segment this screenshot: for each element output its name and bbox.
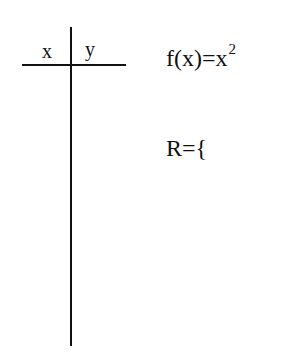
relation-open-brace: { bbox=[196, 135, 208, 161]
function-equals: = bbox=[202, 45, 216, 71]
relation-equals: = bbox=[182, 135, 196, 161]
relation-label: R bbox=[166, 135, 182, 161]
function-definition: f(x)=x2 bbox=[166, 39, 236, 71]
function-base: x bbox=[216, 45, 228, 71]
column-header-x: x bbox=[42, 41, 52, 61]
function-exponent: 2 bbox=[229, 41, 237, 57]
t-chart-vertical-line bbox=[70, 27, 72, 346]
t-chart-horizontal-line bbox=[22, 64, 126, 66]
relation-definition: R={ bbox=[166, 135, 207, 161]
function-lhs: f(x) bbox=[166, 45, 202, 71]
column-header-y: y bbox=[85, 39, 95, 59]
